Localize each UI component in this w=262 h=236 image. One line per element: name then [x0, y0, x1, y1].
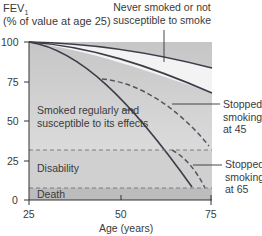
stopped-45-annotation: Stopped smoking at 45 [223, 98, 262, 136]
y-axis-subtitle: (% of value at age 25) [3, 15, 111, 28]
stopped-65-annotation: Stopped smoking at 65 [225, 158, 262, 196]
x-tick-25: 25 [23, 208, 35, 220]
never-smoked-annotation: Never smoked or not susceptible to smoke [113, 1, 211, 26]
y-tick-50: 50 [7, 115, 19, 127]
y-tick-75: 75 [7, 76, 19, 88]
death-label: Death [37, 188, 65, 201]
disability-label: Disability [37, 162, 79, 175]
smoked-regularly-annotation: Smoked regularly and susceptible to its … [37, 104, 148, 129]
x-tick-50: 50 [115, 208, 127, 220]
y-tick-25: 25 [7, 155, 19, 167]
x-tick-75: 75 [205, 208, 217, 220]
y-tick-100: 100 [1, 36, 19, 48]
x-axis-title: Age (years) [99, 222, 153, 234]
y-tick-0: 0 [12, 194, 18, 206]
